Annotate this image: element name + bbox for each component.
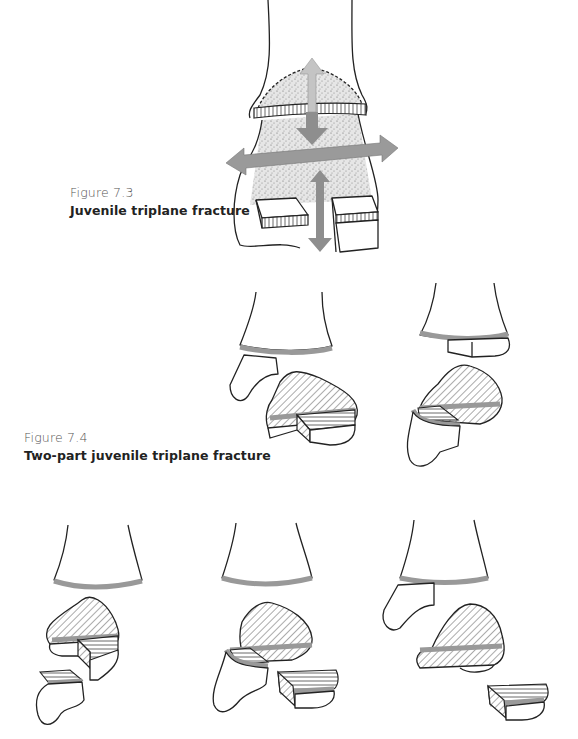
figure-7-4-sketch-1 bbox=[230, 292, 357, 445]
illustrations bbox=[0, 0, 578, 739]
figure-three-part-sketch-3 bbox=[383, 520, 548, 720]
figure-7-4-sketch-2 bbox=[407, 283, 509, 466]
figure-three-part-sketch-1 bbox=[36, 525, 142, 724]
figure-three-part-sketch-2 bbox=[213, 523, 338, 712]
figure-7-3-illustration bbox=[226, 0, 398, 252]
